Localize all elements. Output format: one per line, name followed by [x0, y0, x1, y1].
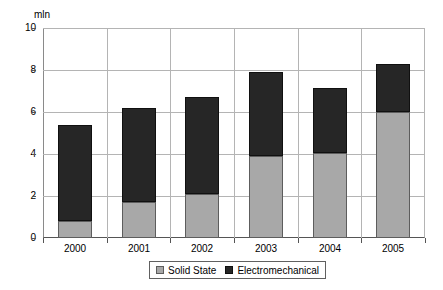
bar-group [376, 28, 410, 238]
bar-segment-electromechanical [249, 72, 283, 156]
x-axis-tick-label: 2004 [298, 243, 362, 254]
bar-segment-electromechanical [313, 88, 347, 153]
bar-segment-solid-state [122, 202, 156, 238]
bar-segment-electromechanical [376, 64, 410, 112]
y-axis-tick [32, 196, 36, 197]
bar-group [185, 28, 219, 238]
bar-segment-electromechanical [185, 97, 219, 194]
legend-item: Electromechanical [225, 265, 319, 276]
bar-group [58, 28, 92, 238]
y-axis-tick [32, 154, 36, 155]
x-axis-tick-label: 2000 [43, 243, 107, 254]
x-axis-tick-label: 2005 [361, 243, 425, 254]
bars-layer [43, 28, 425, 238]
y-axis-labels: 0246810 [0, 28, 36, 238]
legend-label: Electromechanical [237, 265, 319, 276]
bar-group [313, 28, 347, 238]
bar-segment-solid-state [185, 194, 219, 238]
x-axis-tick-label: 2002 [170, 243, 234, 254]
bar-segment-solid-state [313, 153, 347, 238]
legend-item: Solid State [156, 265, 216, 276]
legend-label: Solid State [168, 265, 216, 276]
legend-swatch-icon [225, 266, 233, 274]
bar-segment-solid-state [376, 112, 410, 238]
bar-segment-solid-state [58, 221, 92, 238]
stacked-bar-chart: mln 0246810 200020012002200320042005 Sol… [0, 0, 443, 290]
x-axis-labels: 200020012002200320042005 [43, 243, 425, 259]
legend-swatch-icon [156, 266, 164, 274]
bar-segment-solid-state [249, 156, 283, 238]
chart-legend: Solid StateElectromechanical [149, 261, 326, 279]
x-axis-tick-label: 2001 [107, 243, 171, 254]
x-axis-tick [425, 238, 426, 243]
bar-group [249, 28, 283, 238]
bar-group [122, 28, 156, 238]
y-axis-tick [32, 238, 36, 239]
x-axis-tick-label: 2003 [234, 243, 298, 254]
y-axis-tick [32, 112, 36, 113]
bar-segment-electromechanical [122, 108, 156, 203]
y-axis-tick [32, 70, 36, 71]
y-axis-tick [32, 28, 36, 29]
bar-segment-electromechanical [58, 125, 92, 222]
y-axis-units-label: mln [34, 9, 50, 20]
plot-area [43, 28, 425, 238]
